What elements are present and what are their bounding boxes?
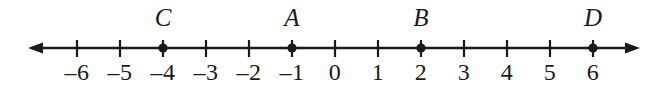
point-dot-c [158, 43, 167, 52]
point-label-a: A [262, 4, 322, 32]
point-label-b: B [391, 4, 451, 32]
axis-arrow-right-icon [625, 43, 640, 54]
point-label-c: C [133, 4, 193, 32]
point-dot-a [287, 43, 296, 52]
axis-arrow-left-icon [28, 43, 43, 54]
point-label-d: D [563, 4, 623, 32]
point-dot-d [588, 43, 597, 52]
number-line-figure: –6–5–4–3–2–10123456 CABD [0, 0, 664, 97]
point-dot-b [416, 43, 425, 52]
tick-label: 6 [563, 58, 623, 86]
